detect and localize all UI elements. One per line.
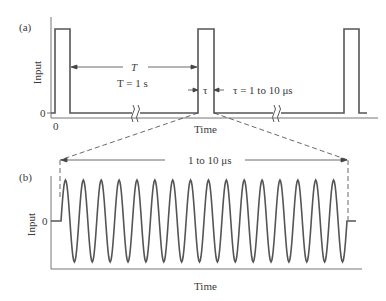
panel-a-x-zero: 0	[53, 121, 59, 132]
panel-b-x-label: Time	[194, 281, 217, 292]
width-value: τ = 1 to 10 μs	[233, 85, 293, 96]
period-symbol: T	[131, 62, 137, 73]
panel-a-x-label: Time	[194, 124, 217, 135]
span-label: 1 to 10 μs	[188, 155, 231, 166]
period-value: T = 1 s	[117, 78, 148, 89]
pulse-2	[140, 29, 273, 113]
zoom-line-left	[60, 113, 198, 160]
panel-b-label: (b)	[19, 172, 32, 183]
axis-break-icon	[132, 105, 140, 122]
pulse-1	[51, 29, 132, 113]
pulse-3	[281, 29, 367, 113]
panel-a-y-label: Input	[32, 58, 43, 88]
panel-b-y-label: Input	[26, 210, 37, 240]
zoom-line-right	[214, 113, 348, 160]
panel-b-y-zero: 0	[42, 216, 48, 227]
width-symbol: τ	[203, 85, 207, 96]
sine-burst	[51, 180, 356, 262]
axis-break-icon	[273, 105, 281, 122]
diagram-canvas	[0, 0, 386, 301]
panel-a-label: (a)	[19, 22, 31, 33]
panel-a-y-zero: 0	[40, 108, 46, 119]
